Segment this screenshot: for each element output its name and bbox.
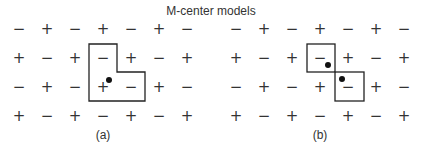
minus-ion: − xyxy=(230,20,243,38)
plus-ion: + xyxy=(286,107,299,125)
minus-ion: − xyxy=(13,78,26,96)
plus-ion: + xyxy=(153,78,166,96)
plus-ion: + xyxy=(125,49,138,67)
minus-ion: − xyxy=(314,49,327,67)
plus-ion: + xyxy=(370,20,383,38)
plus-ion: + xyxy=(69,49,82,67)
plus-ion: + xyxy=(125,107,138,125)
plus-ion: + xyxy=(342,49,355,67)
plus-ion: + xyxy=(230,107,243,125)
minus-ion: − xyxy=(97,49,110,67)
m-center-diagram: −+−+−+−+−+−+−+−+−+−+−+−+−+−+ −+−+−+−+−+−… xyxy=(0,0,422,148)
panel-label-a: (a) xyxy=(96,128,111,142)
plus-ion: + xyxy=(342,107,355,125)
minus-ion: − xyxy=(398,78,411,96)
plus-ion: + xyxy=(13,107,26,125)
minus-ion: − xyxy=(258,107,271,125)
minus-ion: − xyxy=(314,107,327,125)
center-dot xyxy=(106,77,112,83)
plus-ion: + xyxy=(41,20,54,38)
lattice-panel-a: −+−+−+−+−+−+−+−+−+−+−+−+−+−+ xyxy=(13,20,194,125)
center-dot xyxy=(339,76,345,82)
minus-ion: − xyxy=(181,20,194,38)
plus-ion: + xyxy=(286,49,299,67)
minus-ion: − xyxy=(125,20,138,38)
minus-ion: − xyxy=(153,49,166,67)
plus-ion: + xyxy=(314,20,327,38)
plus-ion: + xyxy=(314,78,327,96)
minus-ion: − xyxy=(342,20,355,38)
minus-ion: − xyxy=(258,49,271,67)
plus-ion: + xyxy=(41,78,54,96)
plus-ion: + xyxy=(97,20,110,38)
plus-ion: + xyxy=(181,107,194,125)
plus-ion: + xyxy=(258,20,271,38)
minus-ion: − xyxy=(230,78,243,96)
minus-ion: − xyxy=(69,20,82,38)
plus-ion: + xyxy=(258,78,271,96)
plus-ion: + xyxy=(181,49,194,67)
minus-ion: − xyxy=(370,107,383,125)
minus-ion: − xyxy=(41,49,54,67)
minus-ion: − xyxy=(370,49,383,67)
minus-ion: − xyxy=(69,78,82,96)
minus-ion: − xyxy=(398,20,411,38)
plus-ion: + xyxy=(398,107,411,125)
plus-ion: + xyxy=(153,20,166,38)
minus-ion: − xyxy=(286,78,299,96)
panel-label-b: (b) xyxy=(313,128,328,142)
plus-ion: + xyxy=(69,107,82,125)
plus-ion: + xyxy=(13,49,26,67)
plus-ion: + xyxy=(398,49,411,67)
minus-ion: − xyxy=(181,78,194,96)
minus-ion: − xyxy=(97,107,110,125)
plus-ion: + xyxy=(230,49,243,67)
minus-ion: − xyxy=(41,107,54,125)
minus-ion: − xyxy=(286,20,299,38)
minus-ion: − xyxy=(13,20,26,38)
center-dot xyxy=(325,62,331,68)
plus-ion: + xyxy=(370,78,383,96)
minus-ion: − xyxy=(153,107,166,125)
minus-ion: − xyxy=(125,78,138,96)
